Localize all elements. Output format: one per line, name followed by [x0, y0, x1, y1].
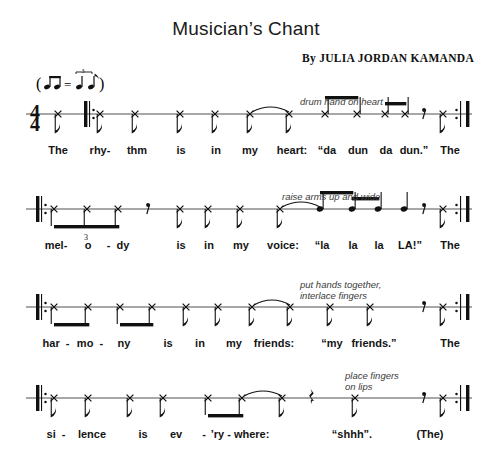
lyric-syllable: “shhh”. — [332, 428, 372, 440]
tie-slur — [254, 300, 290, 305]
stem — [381, 192, 382, 209]
lyric-syllable: dun.” — [400, 144, 429, 156]
stem — [177, 114, 178, 131]
stem — [51, 209, 52, 226]
lyric-syllable: (The) — [417, 428, 444, 440]
stem — [132, 114, 133, 131]
lyric-syllable: is — [176, 239, 185, 251]
composer-byline: By JULIA JORDAN KAMANDA — [302, 52, 474, 64]
lyric-syllable: friends.” — [351, 337, 396, 349]
stem — [239, 398, 240, 415]
performance-direction: place fingers on lips — [345, 370, 399, 392]
rest-quarter — [309, 389, 314, 404]
stem — [205, 398, 206, 415]
stem — [115, 209, 116, 226]
lyric-syllable: - dy — [107, 239, 130, 251]
lyric-syllable: my — [242, 144, 258, 156]
lyric-syllable: thm — [127, 144, 147, 156]
performance-direction: drum hand on heart — [300, 96, 383, 107]
stem — [277, 209, 278, 226]
stem — [367, 307, 368, 324]
stem — [215, 307, 216, 324]
lyric-syllable: LA!” — [398, 239, 422, 251]
stem — [149, 307, 150, 324]
performance-direction: put hands together, interlace fingers — [300, 279, 381, 301]
stem — [440, 114, 441, 131]
lyric-syllable: dun — [348, 144, 368, 156]
lyric-syllable: in — [211, 144, 221, 156]
lyric-syllable: ’ry - where: — [211, 428, 270, 440]
lyric-syllable: “la — [315, 239, 330, 251]
lyric-syllable: “my — [321, 337, 342, 349]
stem — [440, 398, 441, 415]
lyric-syllable: is — [138, 428, 147, 440]
stem — [407, 192, 408, 209]
lyric-syllable: The — [48, 144, 68, 156]
stem — [237, 209, 238, 226]
lyric-syllable: ny — [118, 337, 131, 349]
stem — [440, 209, 441, 226]
beam — [54, 323, 89, 326]
stem — [117, 307, 118, 324]
lyric-syllable: is — [176, 144, 185, 156]
stem — [388, 97, 389, 114]
lyric-syllable: o — [85, 239, 92, 251]
stem — [127, 398, 128, 415]
stem — [183, 307, 184, 324]
beam — [54, 225, 119, 228]
stem — [160, 398, 161, 415]
stem — [440, 307, 441, 324]
beam — [208, 414, 243, 417]
lyric-syllable: in — [204, 239, 214, 251]
tie-slur — [282, 202, 320, 207]
lyric-syllable: ev — [170, 428, 182, 440]
lyric-syllable: voice: — [267, 239, 299, 251]
stem — [97, 114, 98, 131]
tie-slur — [252, 107, 289, 112]
lyric-syllable: la — [374, 239, 383, 251]
lyric-syllable: The — [440, 337, 460, 349]
stem — [177, 209, 178, 226]
lyric-syllable: in — [195, 337, 205, 349]
lyric-syllable: heart: — [277, 144, 308, 156]
stem — [249, 307, 250, 324]
system-3: put hands together, interlace fingershar… — [0, 281, 492, 371]
system-4: place fingers on lipssi -lenceisev-’ry -… — [0, 372, 492, 462]
lyric-syllable: da — [380, 144, 393, 156]
sheet-music-page: Musician’s Chant By JULIA JORDAN KAMANDA… — [0, 0, 492, 465]
stem — [55, 114, 56, 131]
lyric-syllable: is — [163, 337, 172, 349]
lyric-syllable: mo - — [77, 337, 103, 349]
tie-slur — [244, 391, 282, 396]
lyric-syllable: friends: — [254, 337, 294, 349]
stem — [85, 307, 86, 324]
beam — [120, 323, 153, 326]
stem — [247, 114, 248, 131]
svg-text:3: 3 — [82, 68, 85, 74]
stem — [51, 398, 52, 415]
system-1: 44drum hand on heartTherhy-thmisinmyhear… — [0, 88, 492, 178]
lyric-syllable: my — [233, 239, 249, 251]
stem — [327, 307, 328, 324]
stem — [279, 398, 280, 415]
stem — [352, 398, 353, 415]
note-round — [400, 192, 408, 213]
lyric-syllable: har - — [43, 337, 70, 349]
stem — [287, 307, 288, 324]
lyric-syllable: my — [226, 337, 242, 349]
performance-direction: raise arms up and wide — [282, 191, 380, 202]
system-2: 3raise arms up and widemel-o- dyisinmyvo… — [0, 183, 492, 273]
svg-text:4: 4 — [30, 113, 40, 135]
lyric-syllable: la — [348, 239, 357, 251]
lyric-syllable: The — [440, 144, 460, 156]
lyric-syllable: si - — [47, 428, 66, 440]
lyric-syllable: lence — [78, 428, 106, 440]
lyric-syllable: “da — [318, 144, 336, 156]
page-title: Musician’s Chant — [0, 18, 492, 40]
lyric-syllable: mel- — [45, 239, 68, 251]
stem — [51, 307, 52, 324]
stem — [408, 97, 409, 114]
stem — [84, 209, 85, 226]
stem — [212, 114, 213, 131]
stem — [205, 209, 206, 226]
